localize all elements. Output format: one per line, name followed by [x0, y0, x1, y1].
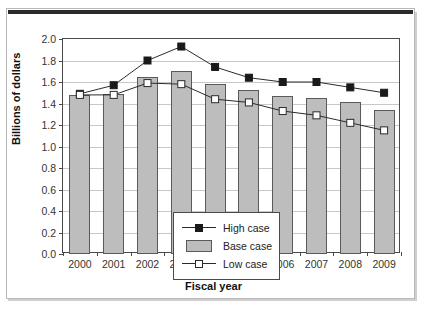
data-point-marker [212, 63, 219, 70]
series-line-high-case [80, 47, 384, 94]
legend-label-high-case: High case [223, 222, 270, 234]
y-tick-label: 1.6 [41, 76, 56, 88]
high-case-marker-icon [180, 221, 218, 235]
y-tick [59, 39, 63, 40]
x-tick [401, 252, 402, 256]
series-line-low-case [80, 83, 384, 130]
legend-label-low-case: Low case [223, 258, 267, 270]
data-point-marker [381, 89, 388, 96]
figure-shadow-right [415, 12, 417, 299]
y-tick-label: 0.0 [41, 248, 56, 260]
x-tick-label: 2000 [68, 258, 91, 270]
y-tick [59, 125, 63, 126]
y-tick-label: 1.4 [41, 98, 56, 110]
y-tick [59, 104, 63, 105]
x-tick-label: 2007 [305, 258, 328, 270]
gridline [63, 61, 399, 62]
y-tick [59, 190, 63, 191]
y-tick [59, 168, 63, 169]
x-tick-label: 2001 [102, 258, 125, 270]
base-case-swatch-icon [180, 239, 218, 253]
bar [374, 110, 395, 254]
legend-item-low-case: Low case [180, 255, 273, 273]
bar [103, 94, 124, 254]
x-tick-label: 2002 [136, 258, 159, 270]
y-tick-label: 0.6 [41, 184, 56, 196]
x-tick [164, 252, 165, 256]
y-axis-title: Billions of dollars [10, 53, 22, 145]
x-tick [333, 252, 334, 256]
low-case-marker-icon [180, 257, 218, 271]
data-point-marker [347, 84, 354, 91]
x-tick-label: 2009 [372, 258, 395, 270]
y-tick-label: 1.0 [41, 141, 56, 153]
x-tick [97, 252, 98, 256]
legend-label-base-case: Base case [223, 240, 272, 252]
bar [306, 98, 327, 254]
data-point-marker [178, 43, 185, 50]
legend-item-base-case: Base case [180, 237, 273, 255]
y-tick-label: 1.8 [41, 55, 56, 67]
bar [340, 102, 361, 254]
y-tick [59, 82, 63, 83]
chart-legend: High case Base case Low case [173, 212, 280, 280]
figure-shadow-bottom [8, 299, 417, 301]
x-tick [63, 252, 64, 256]
x-tick-label: 2008 [339, 258, 362, 270]
y-tick-label: 0.2 [41, 227, 56, 239]
y-tick [59, 147, 63, 148]
plot-area: 0.00.20.40.60.81.01.21.41.61.82.0 200020… [62, 38, 400, 253]
x-axis-title: Fiscal year [0, 280, 427, 292]
bar [137, 77, 158, 254]
y-tick-label: 2.0 [41, 33, 56, 45]
figure-top-rule [8, 10, 413, 14]
y-tick [59, 211, 63, 212]
y-tick-label: 0.4 [41, 205, 56, 217]
x-tick [300, 252, 301, 256]
bar [69, 95, 90, 254]
y-tick-label: 0.8 [41, 162, 56, 174]
x-tick [131, 252, 132, 256]
gridline [63, 82, 399, 83]
data-point-marker [245, 74, 252, 81]
y-tick [59, 61, 63, 62]
chart-figure: Billions of dollars 0.00.20.40.60.81.01.… [0, 0, 427, 309]
y-tick [59, 233, 63, 234]
legend-item-high-case: High case [180, 219, 273, 237]
x-tick [367, 252, 368, 256]
y-tick-label: 1.2 [41, 119, 56, 131]
